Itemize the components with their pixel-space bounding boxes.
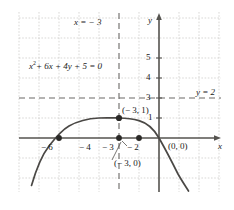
directrix-label: y = 2 xyxy=(196,88,215,97)
y-tick-label-5: 5 xyxy=(146,53,151,62)
point-neg3-0 xyxy=(116,135,122,141)
equation-label: x2+ 6x + 4y + 5 = 0 xyxy=(29,61,102,71)
vertex-point-label: (− 3, 1) xyxy=(122,106,149,115)
point-x-intercept-left xyxy=(56,135,62,141)
x-tick-label-neg2: − 2 xyxy=(127,143,139,152)
x-axis-label: x xyxy=(218,142,222,151)
axis-of-symmetry-label: x = − 3 xyxy=(74,18,101,27)
point-x-intercept-right xyxy=(136,135,142,141)
graph-svg xyxy=(0,0,234,210)
y-tick-label-3: 3 xyxy=(146,93,151,102)
origin-point-label: (0, 0) xyxy=(168,142,188,151)
x-intercept-point-label: (− 3, 0) xyxy=(114,159,141,168)
figure-container: x2+ 6x + 4y + 5 = 0 x = − 3 y = 2 y x 5 … xyxy=(0,0,234,210)
x-tick-label-neg3: − 3 xyxy=(102,143,114,152)
point-vertex xyxy=(116,115,122,121)
y-tick-label-4: 4 xyxy=(146,73,151,82)
y-axis-label: y xyxy=(148,16,152,25)
equation-rest: + 6x + 4y + 5 = 0 xyxy=(36,61,102,71)
x-tick-label-neg6: − 6 xyxy=(41,143,53,152)
x-tick-label-neg4: − 4 xyxy=(79,143,91,152)
